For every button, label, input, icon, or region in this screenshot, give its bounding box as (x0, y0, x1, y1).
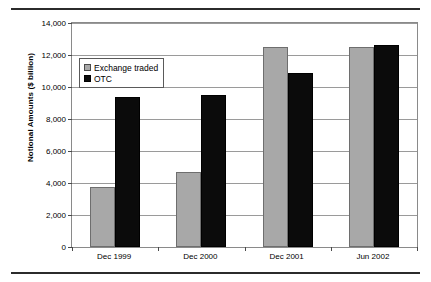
legend-swatch-icon (84, 75, 91, 82)
x-tick-label: Dec 2000 (183, 252, 217, 261)
x-tick-mark (72, 247, 73, 251)
top-rule (11, 8, 420, 10)
bar-exchange-traded (349, 47, 374, 247)
x-tick-label: Dec 2001 (270, 252, 304, 261)
x-tick-mark (417, 247, 418, 251)
bar-otc (201, 95, 226, 247)
y-tick-label: 4,000 (46, 179, 66, 188)
chart-legend: Exchange tradedOTC (79, 58, 164, 88)
legend-label: OTC (94, 74, 112, 84)
bar-exchange-traded (263, 47, 288, 247)
chart-figure: Notional Amounts ($ billion) 02,0004,000… (0, 0, 431, 282)
x-tick-mark (245, 247, 246, 251)
y-tick-label: 14,000 (42, 19, 66, 28)
legend-item: Exchange traded (84, 62, 158, 73)
x-tick-label: Dec 1999 (97, 252, 131, 261)
y-tick-label: 0 (62, 243, 66, 252)
bar-otc (115, 97, 140, 247)
y-tick-label: 10,000 (42, 83, 66, 92)
legend-label: Exchange traded (94, 63, 158, 73)
y-tick-label: 6,000 (46, 147, 66, 156)
bar-otc (374, 45, 399, 247)
bar-otc (288, 73, 313, 247)
x-tick-mark (331, 247, 332, 251)
bottom-rule (11, 272, 420, 274)
legend-item: OTC (84, 73, 158, 84)
x-tick-mark (158, 247, 159, 251)
bar-exchange-traded (90, 187, 115, 247)
bar-series-container (72, 23, 417, 247)
y-tick-label: 12,000 (42, 51, 66, 60)
y-tick-label: 2,000 (46, 211, 66, 220)
y-axis-title: Notional Amounts ($ billion) (26, 28, 35, 188)
y-tick-label: 8,000 (46, 115, 66, 124)
legend-swatch-icon (84, 64, 91, 71)
x-tick-label: Jun 2002 (356, 252, 389, 261)
bar-exchange-traded (176, 172, 201, 247)
plot-area: 02,0004,0006,0008,00010,00012,00014,000 (71, 22, 418, 248)
